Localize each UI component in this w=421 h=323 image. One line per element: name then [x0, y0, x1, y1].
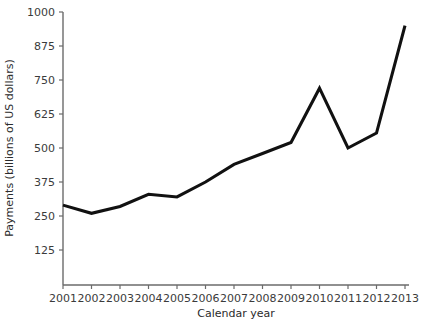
y-tick-label: 625 [34, 108, 55, 121]
data-series-line [63, 26, 405, 214]
y-tick-label: 125 [34, 244, 55, 257]
y-tick-label-group: 1252503755006257508751000 [27, 6, 55, 257]
chart-canvas: 1252503755006257508751000 20012002200320… [0, 0, 421, 323]
x-tick-label: 2013 [391, 292, 419, 305]
x-tick-label: 2004 [135, 292, 163, 305]
y-tick-label: 500 [34, 142, 55, 155]
x-tick-label: 2006 [192, 292, 220, 305]
x-axis: 2001200220032004200520062007200820092010… [49, 285, 419, 305]
x-tick-label: 2009 [277, 292, 305, 305]
x-tick-label: 2010 [306, 292, 334, 305]
y-axis-title: Payments (billions of US dollars) [3, 59, 16, 237]
x-tick-label: 2005 [163, 292, 191, 305]
x-axis-title: Calendar year [197, 307, 275, 320]
x-tick-label: 2001 [49, 292, 77, 305]
y-tick-label: 375 [34, 176, 55, 189]
x-tick-label-group: 2001200220032004200520062007200820092010… [49, 292, 419, 305]
x-tick-label: 2012 [363, 292, 391, 305]
y-axis: 1252503755006257508751000 [27, 6, 63, 285]
x-tick-label: 2011 [334, 292, 362, 305]
y-tick-label: 1000 [27, 6, 55, 19]
x-tick-label: 2008 [249, 292, 277, 305]
y-tick-label: 750 [34, 74, 55, 87]
x-tick-label: 2002 [78, 292, 106, 305]
line-chart: 1252503755006257508751000 20012002200320… [0, 0, 421, 323]
y-tick-label: 250 [34, 210, 55, 223]
y-tick-label: 875 [34, 40, 55, 53]
x-tick-label: 2003 [106, 292, 134, 305]
x-tick-label: 2007 [220, 292, 248, 305]
